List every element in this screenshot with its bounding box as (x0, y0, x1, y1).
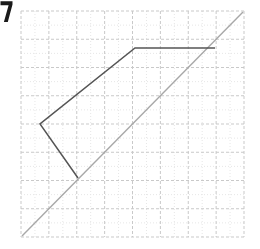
corner-seven-glyph-icon (0, 0, 20, 26)
screenshot-canvas (0, 0, 260, 249)
plot-figure (0, 0, 260, 249)
